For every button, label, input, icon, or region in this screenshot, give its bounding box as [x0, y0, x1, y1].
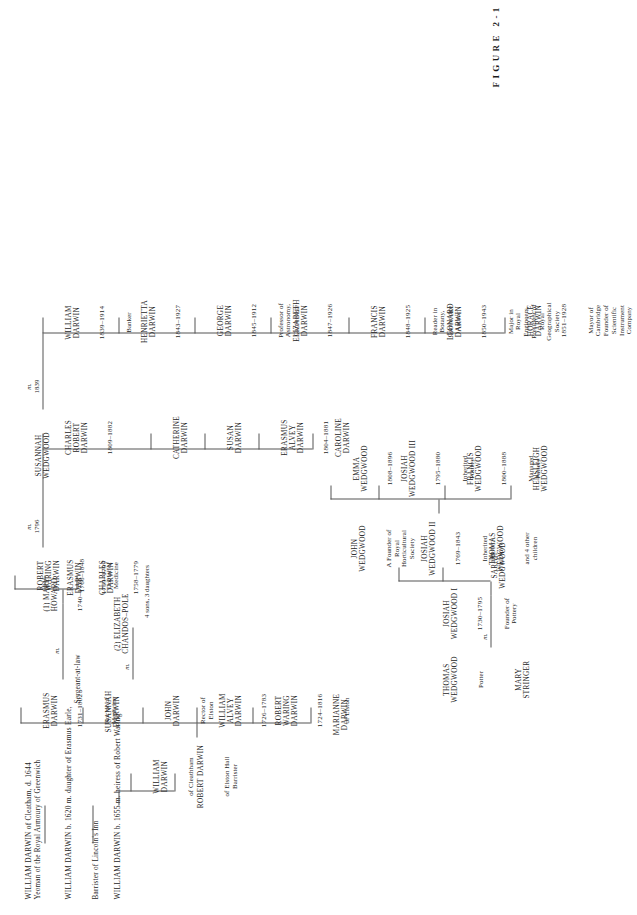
node-catherine-darwin: CATHERINE DARWIN [154, 407, 206, 467]
node-dates: 1800–1888 [500, 435, 508, 501]
node-dates: 1848–1925 [404, 293, 412, 349]
node-robert-darwin-elston-hall: ROBERT DARWIN of Elston Hall Barrister [178, 737, 255, 815]
connector-h-gen4-3 [142, 707, 143, 723]
node-john-darwin: JOHN DARWIN Rector of Elston [146, 681, 231, 739]
node-dates: 1804–1881 [322, 409, 330, 465]
node-dates: 1809–1882 [106, 409, 114, 465]
node-name: HENSLEIGH WEDGWOOD [532, 435, 548, 501]
node-name: WILLIAM DARWIN [64, 295, 80, 349]
figure-caption: FIGURE 2-1 [490, 4, 500, 87]
marriage-symbol-rwd: m. [24, 519, 31, 533]
connector-h-gen3-stem [118, 791, 119, 805]
node-mary-stringer: MARY STRINGER [496, 645, 548, 713]
node-thomas-wedgwood-and-others: THOMAS WEDGWOOD and 4 other children [470, 513, 555, 583]
marriage-year-crd: 1839 [32, 373, 39, 399]
node-desc: Doctor of Medicine [102, 681, 117, 739]
marriage-year-rwd: 1796 [32, 513, 39, 539]
node-name: ROBERT DARWIN [196, 737, 204, 815]
marriage-symbol-crd: m. [24, 379, 31, 393]
node-desc: of Elston Hall Barrister [222, 737, 237, 815]
node-name: FRANCIS WEDGWOOD [466, 435, 482, 501]
connector-marriage-josiah-sarah [490, 595, 491, 647]
node-name: MARY STRINGER [514, 645, 530, 713]
connector-h-gen3-a [130, 773, 131, 791]
node-robert-waring-darwin-1766: ROBERT WARING DARWIN 1766–1848 Doctor of… [18, 547, 137, 603]
node-dates: 1769–1843 [454, 513, 462, 583]
header-line2: Yeoman of the Royal Armoury of Greenwich [33, 759, 42, 899]
node-name: EMMA WEDGWOOD [352, 435, 368, 501]
node-name: ELIZABETH DARWIN [292, 289, 308, 351]
node-name: THOMAS WEDGWOOD [442, 645, 458, 713]
node-name: HENRIETTA DARWIN [140, 291, 156, 351]
node-horace-darwin: HORACE DARWIN 1851–1928 Mayor of Cambrid… [508, 291, 637, 349]
node-name: FRANCIS DARWIN [370, 293, 386, 349]
node-dates: 1843–1927 [174, 291, 182, 351]
marriage-symbol-erasmus-1: m. [52, 643, 59, 657]
node-desc: Doctor of Medicine [104, 547, 119, 603]
connector-h-gen2 [92, 805, 93, 843]
node-charles-robert-darwin: CHARLES ROBERT DARWIN 1809–1882 [46, 409, 132, 465]
connector-h-gen1 [44, 805, 45, 843]
node-hensleigh-wedgwood: HENSLEIGH WEDGWOOD [514, 435, 566, 501]
node-dates: 1724–1816 [316, 681, 324, 739]
connector-h-wedg4-0 [330, 485, 331, 499]
node-dates: 1731–1802 [76, 681, 84, 739]
connector-h-gen5-2 [14, 575, 15, 589]
node-erasmus-darwin: ERASMUS DARWIN 1731–1802 Doctor of Medic… [24, 681, 135, 739]
node-name: JOHN DARWIN [164, 681, 180, 739]
connector-h-gen5b-stem [42, 449, 43, 463]
node-name: THOMAS WEDGWOOD [488, 513, 504, 583]
node-name: JOHN WEDGWOOD [350, 513, 366, 583]
node-desc: Potter [476, 645, 484, 713]
node-name: HORACE DARWIN [526, 291, 542, 349]
header-line1: WILLIAM DARWIN of Cleatham, d. 1644 [23, 762, 32, 899]
node-name: LEONARD DARWIN [446, 291, 462, 351]
marriage-symbol-josiah: m. [480, 629, 487, 643]
node-dates: 1850–1943 [480, 291, 488, 351]
node-dates: 1851–1928 [560, 291, 568, 349]
node-name: CATHERINE DARWIN [172, 407, 188, 467]
connector-h-gen5b-4 [42, 433, 43, 449]
node-dates: 1726–1783 [260, 681, 268, 739]
connector-h-gen6-0 [42, 317, 43, 333]
node-dates: 1847–1926 [326, 289, 334, 351]
node-dates: 1766–1848 [78, 547, 86, 603]
node-desc: Mayor of Cambridge Founder of Scientific… [586, 291, 632, 349]
node-desc: and 4 other children [522, 513, 537, 583]
node-name: ERASMUS ALVEY DARWIN [280, 409, 304, 465]
node-name: JOSIAH WEDGWOOD I [442, 579, 458, 647]
node-henrietta-darwin: HENRIETTA DARWIN 1843–1927 [122, 291, 200, 351]
node-name: JOSIAH WEDGWOOD III [400, 435, 416, 501]
node-name: ROBERT WARING DARWIN [36, 547, 60, 603]
node-dates: 1845–1912 [250, 289, 258, 351]
node-susan-darwin: SUSAN DARWIN [208, 409, 260, 465]
node-name: JOSIAH WEDGWOOD II [420, 513, 436, 583]
node-name: SUSAN DARWIN [226, 409, 242, 465]
node-thomas-wedgwood-potter: THOMAS WEDGWOOD Potter [424, 645, 502, 713]
node-desc: of Elston [342, 681, 350, 739]
node-name: GEORGE DARWIN [216, 289, 232, 351]
node-desc: Rector of Elston [198, 681, 213, 739]
connector-marriage-crd-ew [42, 333, 43, 409]
connector-h-gen4-5 [20, 707, 21, 723]
node-name: CHARLES ROBERT DARWIN [64, 409, 88, 465]
node-name: ERASMUS DARWIN [42, 681, 58, 739]
node-dates: 1839–1914 [98, 295, 106, 349]
node-name: WILLIAM DARWIN [152, 737, 168, 815]
node-dates: 1795–1880 [434, 435, 442, 501]
connector-h-gen5b-3 [150, 433, 151, 449]
node-elizabeth-darwin: ELIZABETH DARWIN 1847–1926 [274, 289, 352, 351]
